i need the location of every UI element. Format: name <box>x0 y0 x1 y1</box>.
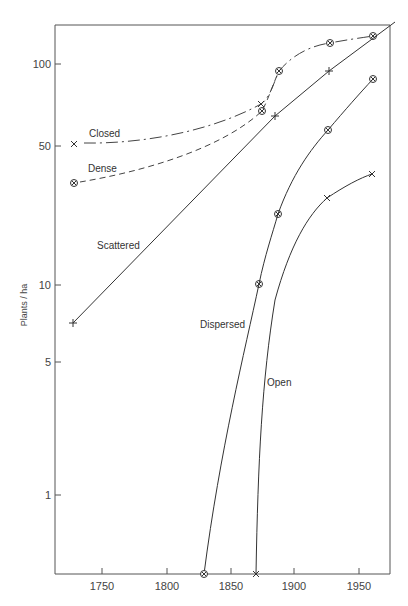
y-ticks <box>55 64 61 495</box>
circle-x-marker-icon <box>71 33 377 578</box>
series-label-scattered: Scattered <box>97 240 140 251</box>
series-label-dispersed: Dispersed <box>200 319 245 330</box>
chart: 100 50 10 5 1 Plants / ha 1750 1800 1850… <box>0 0 408 606</box>
x-tick-label-1850: 1850 <box>219 580 243 592</box>
series-open-line <box>256 174 372 574</box>
series-label-dense: Dense <box>88 163 117 174</box>
x-tick-label-1900: 1900 <box>282 580 306 592</box>
y-tick-labels: 100 50 10 5 1 <box>33 58 51 501</box>
x-ticks <box>102 568 359 574</box>
y-tick-label-1: 1 <box>45 489 51 501</box>
y-axis-title: Plants / ha <box>19 284 29 327</box>
x-tick-labels: 1750 1800 1850 1900 1950 <box>90 580 371 592</box>
y-tick-label-50: 50 <box>39 140 51 152</box>
plus-marker-icon <box>69 67 333 327</box>
x-tick-label-1950: 1950 <box>347 580 371 592</box>
y-tick-label-100: 100 <box>33 58 51 70</box>
x-tick-label-1750: 1750 <box>90 580 114 592</box>
series-label-open: Open <box>267 377 291 388</box>
series-scattered-line <box>73 22 395 323</box>
plot-frame <box>55 25 390 574</box>
x-tick-label-1800: 1800 <box>155 580 179 592</box>
y-tick-label-10: 10 <box>39 279 51 291</box>
markers <box>69 33 377 578</box>
series-label-closed: Closed <box>89 128 120 139</box>
y-tick-label-5: 5 <box>45 356 51 368</box>
